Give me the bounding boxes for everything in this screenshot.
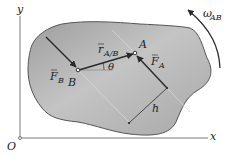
point-b-label: B xyxy=(67,76,76,89)
h-endpoint-lower xyxy=(128,122,130,124)
origin-label: O xyxy=(7,140,16,153)
rab-subscript: A/B xyxy=(103,49,118,58)
rigid-body-diagram: y x O B A F xyxy=(0,0,226,155)
y-axis-label: y xyxy=(16,3,24,16)
origin-point xyxy=(19,137,22,140)
omega-subscript: AB xyxy=(209,13,222,22)
fb-symbol: F xyxy=(49,70,58,83)
fa-subscript: A xyxy=(158,61,165,70)
x-axis-label: x xyxy=(210,130,217,143)
point-a-label: A xyxy=(138,38,147,51)
distance-h-label: h xyxy=(152,102,159,115)
point-b xyxy=(76,68,80,72)
theta-label: θ xyxy=(108,61,114,72)
fb-subscript: B xyxy=(57,76,64,85)
fa-symbol: F xyxy=(150,55,159,68)
point-a xyxy=(133,51,137,55)
